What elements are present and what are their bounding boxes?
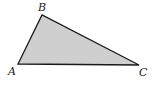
triangle-diagram: A B C — [0, 0, 155, 90]
triangle-abc — [18, 15, 139, 65]
vertex-label-c: C — [139, 66, 148, 79]
vertex-label-b: B — [37, 1, 46, 14]
vertex-label-a: A — [7, 65, 16, 78]
